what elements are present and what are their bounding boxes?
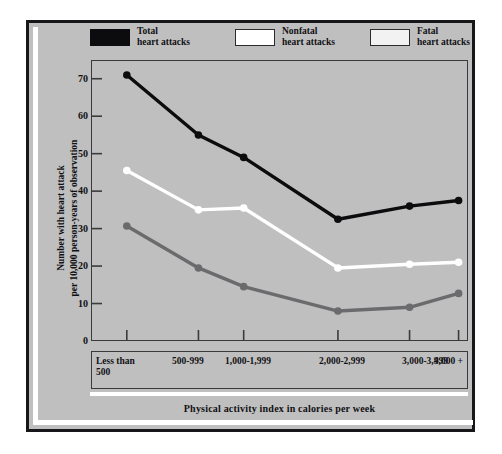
- series-marker-2: [123, 222, 131, 230]
- x-category-label: 1,000-1,999: [225, 356, 271, 367]
- series-marker-2: [334, 307, 342, 315]
- series-marker-1: [123, 167, 131, 175]
- x-axis-category-box: Less than 500500-9991,000-1,9992,000-2,9…: [91, 351, 468, 389]
- legend-item-total: Totalheart attacks: [90, 26, 190, 48]
- series-marker-0: [240, 154, 248, 162]
- chart-legend: Totalheart attacks Nonfatalheart attacks…: [90, 25, 475, 59]
- y-axis-title: Number with heart attackper 10,000 perso…: [55, 88, 81, 348]
- y-tick-label: 70: [62, 73, 88, 84]
- legend-item-fatal: Fatalheart attacks: [370, 26, 470, 48]
- series-marker-1: [195, 206, 203, 214]
- x-category-label: 2,000-2,999: [319, 356, 365, 367]
- series-marker-0: [334, 215, 342, 223]
- x-category-label: Less than 500: [96, 356, 135, 378]
- series-marker-1: [455, 259, 463, 267]
- series-marker-1: [406, 260, 414, 268]
- legend-swatch-total-icon: [90, 29, 130, 46]
- x-category-label: 500-999: [172, 356, 204, 367]
- figure-container: Totalheart attacks Nonfatalheart attacks…: [0, 0, 502, 454]
- legend-label-fatal: Fatalheart attacks: [417, 26, 470, 48]
- series-marker-0: [455, 197, 463, 205]
- x-axis-title-box: Physical activity index in calories per …: [91, 396, 468, 420]
- series-marker-0: [195, 131, 203, 139]
- legend-label-nonfatal: Nonfatalheart attacks: [282, 26, 335, 48]
- legend-swatch-nonfatal-icon: [235, 29, 275, 46]
- series-marker-0: [406, 202, 414, 210]
- x-category-label: 4,000 +: [434, 356, 463, 367]
- series-marker-2: [195, 264, 203, 272]
- accent-strip-left: [33, 27, 38, 425]
- x-axis-title: Physical activity index in calories per …: [184, 403, 375, 414]
- accent-strip-bottom: [33, 420, 473, 425]
- legend-label-total: Totalheart attacks: [137, 26, 190, 48]
- series-marker-2: [406, 303, 414, 311]
- legend-item-nonfatal: Nonfatalheart attacks: [235, 26, 335, 48]
- series-marker-1: [240, 204, 248, 212]
- series-marker-2: [240, 283, 248, 291]
- legend-swatch-fatal-icon: [370, 29, 410, 46]
- series-marker-1: [334, 264, 342, 272]
- plot-series-layer: [91, 60, 468, 341]
- series-marker-2: [455, 290, 463, 298]
- series-marker-0: [123, 71, 131, 79]
